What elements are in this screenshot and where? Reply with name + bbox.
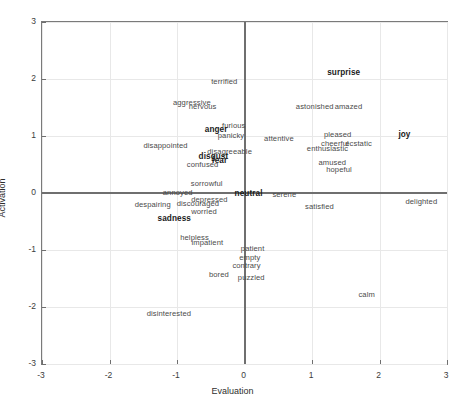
y-axis-tick [42,136,46,137]
y-axis-tick-label: -2 [20,301,36,311]
data-point-label-surprise: surprise [327,67,360,76]
data-point-label-amazed: amazed [335,101,363,110]
y-axis-tick-label: 1 [20,130,36,140]
plot-area: terrifiedaggressivenervoussurpriseastoni… [41,21,448,365]
data-point-label-nervous: nervous [189,102,217,111]
x-axis-tick-label: 1 [309,370,314,380]
data-point-label-ecstatic: ecstatic [345,138,372,147]
data-point-label-calm: calm [358,290,374,299]
y-axis-tick-label: 3 [20,16,36,26]
y-axis-tick [42,364,46,365]
data-point-label-confused: confused [187,159,219,168]
data-point-label-neutral: neutral [235,189,263,198]
y-axis-tick [42,79,46,80]
y-axis-tick-label: -1 [20,244,36,254]
x-axis-tick-label: 3 [444,370,449,380]
data-point-label-satisfied: satisfied [305,201,334,210]
data-point-label-attentive: attentive [264,133,294,142]
data-point-label-sadness: sadness [158,214,191,223]
x-axis-tick-label: -2 [105,370,113,380]
data-point-label-annoyed: annoyed [163,187,193,196]
data-point-label-disinterested: disinterested [147,308,191,317]
data-point-label-bored: bored [209,269,229,278]
data-point-label-puzzled: puzzled [238,273,265,282]
x-axis-title: Evaluation [0,386,465,396]
y-axis-tick-label: 2 [20,73,36,83]
data-point-label-sorrowful: sorrowful [191,179,223,188]
data-point-label-worried: worried [191,207,217,216]
x-axis-tick-label: -3 [37,370,45,380]
y-axis-title: Activation [0,178,7,217]
emotion-scatter-figure: terrifiedaggressivenervoussurpriseastoni… [0,0,465,419]
data-point-label-delighted: delighted [405,196,437,205]
y-axis-tick [42,22,46,23]
data-point-label-disappointed: disappointed [143,140,187,149]
y-axis-tick-label: -3 [20,358,36,368]
data-point-label-enthusiastic: enthusiastic [307,143,348,152]
data-point-label-panicky: panicky [218,130,244,139]
data-point-label-serene: serene [272,190,296,199]
data-point-label-joy: joy [398,130,410,139]
x-axis-tick-label: 2 [376,370,381,380]
x-axis-tick-label: 0 [241,370,246,380]
x-axis-tick-label: -1 [172,370,180,380]
y-axis-tick-label: 0 [20,187,36,197]
x-axis-tick [447,360,448,364]
data-point-label-contrary: contrary [232,260,260,269]
data-point-label-terrified: terrified [211,77,237,86]
data-point-label-despairing: despairing [135,199,171,208]
data-point-label-impatient: impatient [192,238,224,247]
y-axis-tick [42,307,46,308]
data-point-label-hopeful: hopeful [326,165,352,174]
gridline-vertical [447,22,448,364]
data-point-label-astonished: astonished [296,101,334,110]
gridline-horizontal [42,364,447,365]
y-axis-tick [42,250,46,251]
